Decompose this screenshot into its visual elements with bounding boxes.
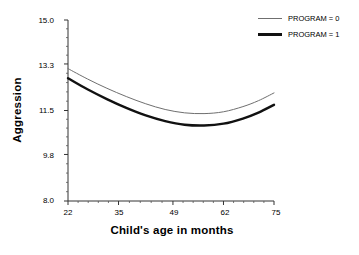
x-tick-label-22: 22	[53, 209, 83, 217]
legend-item-program-1[interactable]: PROGRAM = 1	[258, 28, 358, 41]
legend-label-program-1: PROGRAM = 1	[288, 30, 339, 39]
x-tick-label-49: 49	[159, 209, 189, 217]
y-tick-label-9: 9.8	[20, 152, 54, 160]
y-tick-label-15: 15.0	[20, 17, 54, 25]
series-line-program-0	[68, 69, 274, 114]
y-tick-label-13: 13.3	[20, 62, 54, 70]
x-tick-label-75: 75	[261, 209, 291, 217]
x-axis-title: Child's age in months	[68, 224, 276, 236]
legend-line-icon-program-0	[258, 16, 282, 22]
series-line-program-1	[68, 78, 274, 125]
tick-marks	[64, 20, 274, 205]
series-layer	[68, 69, 274, 126]
legend-item-program-0[interactable]: PROGRAM = 0	[258, 12, 358, 25]
y-tick-label-11: 11.5	[20, 107, 54, 115]
x-tick-label-62: 62	[210, 209, 240, 217]
y-tick-label-8: 8.0	[20, 197, 54, 205]
legend-line-icon-program-1	[258, 32, 282, 38]
legend: PROGRAM = 0 PROGRAM = 1	[258, 12, 358, 44]
chart-figure: Aggression 15.0 13.3 11.5 9.8 8.0 22 35 …	[0, 0, 359, 255]
legend-label-program-0: PROGRAM = 0	[288, 14, 339, 23]
x-tick-label-35: 35	[104, 209, 134, 217]
